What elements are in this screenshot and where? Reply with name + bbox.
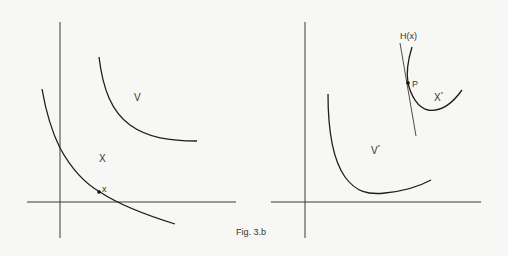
label-h-x: H(x) [400,31,417,41]
label-v: V [134,92,141,103]
point-x-marker [97,190,101,194]
label-x-star: X* [434,91,444,103]
figure-canvas: V X x H(x) P X* V* Fig. 3.b [0,0,508,256]
figure-caption: Fig. 3.b [236,227,266,237]
label-x-point: x [102,184,107,194]
label-p: P [412,79,418,89]
label-v-star: V* [371,144,381,156]
hyperplane-h-line [400,43,416,136]
left-panel: V X x [27,22,236,238]
left-lower-curve [42,89,175,224]
point-p-marker [406,81,410,85]
right-panel: H(x) P X* V* [271,22,481,238]
left-upper-curve-v [99,57,197,141]
label-x-set: X [99,153,106,164]
